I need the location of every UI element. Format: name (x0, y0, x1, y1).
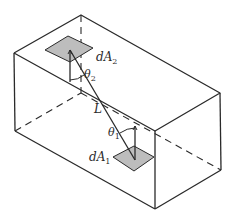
box-right-vertical (220, 93, 221, 170)
arc-theta2 (70, 75, 84, 80)
label-dA2: dA2 (96, 50, 117, 66)
label-theta2: θ2 (84, 68, 96, 83)
box-left-vertical (14, 53, 15, 131)
label-theta1: θ1 (108, 126, 120, 141)
patch-dA2 (45, 36, 93, 62)
arc-theta1 (120, 128, 135, 133)
label-L: L (93, 102, 102, 116)
hidden-bottom-left-back (15, 93, 81, 131)
diagram: dA2 θ2 L θ1 dA1 (0, 0, 239, 224)
line-L (70, 50, 135, 160)
box-bottom-right-edge (155, 170, 221, 209)
label-dA1: dA1 (89, 150, 110, 166)
box (14, 15, 221, 209)
box-top-edges (14, 15, 220, 131)
rays (68, 50, 137, 160)
hidden-edges (15, 15, 221, 170)
